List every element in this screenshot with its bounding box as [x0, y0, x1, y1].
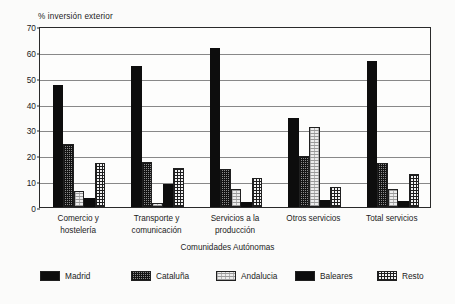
bar	[288, 118, 299, 207]
bar-group	[197, 28, 275, 207]
legend-swatch-icon	[216, 271, 236, 281]
legend-label: Baleares	[320, 271, 353, 281]
bar-group	[40, 28, 118, 207]
y-axis-title: % inversión exterior	[38, 12, 113, 21]
legend-item-madrid[interactable]: Madrid	[40, 269, 90, 283]
legend-swatch-icon	[131, 271, 151, 281]
bar	[330, 187, 341, 207]
legend-label: Madrid	[65, 271, 90, 281]
legend-item-catalua[interactable]: Cataluña	[131, 269, 189, 283]
bar	[210, 48, 221, 207]
x-category-label-line: Comercio y	[39, 213, 117, 225]
y-tick-label: 10	[27, 178, 36, 188]
bar	[63, 144, 74, 207]
bar	[163, 184, 174, 207]
x-axis-title: Comunidades Autónomas	[0, 243, 455, 252]
bar	[320, 200, 331, 207]
chart-figure: % inversión exterior 010203040506070 Com…	[0, 0, 455, 304]
plot-area: 010203040506070	[39, 27, 431, 208]
bar	[388, 189, 399, 207]
y-tick-label: 20	[27, 152, 36, 162]
bar	[398, 201, 409, 207]
bar	[299, 156, 310, 207]
bar	[131, 66, 142, 207]
x-category-label-line: producción	[196, 225, 274, 237]
legend-label: Andalucia	[241, 271, 277, 281]
legend-swatch-icon	[40, 271, 60, 281]
bar-group	[118, 28, 196, 207]
legend-item-baleares[interactable]: Baleares	[295, 269, 353, 283]
y-tick-label: 70	[27, 23, 36, 33]
legend-item-resto[interactable]: Resto	[377, 269, 424, 283]
bar	[367, 61, 378, 207]
y-tick-label: 0	[31, 204, 36, 214]
x-category-label: Comercio yhostelería	[39, 213, 117, 236]
y-tick-mark	[37, 209, 40, 210]
x-category-label-line: Total servicios	[353, 213, 431, 225]
bar	[231, 189, 242, 207]
bar	[252, 178, 263, 207]
bar-group	[354, 28, 432, 207]
bar	[309, 127, 320, 207]
bar	[377, 163, 388, 207]
y-tick-label: 40	[27, 101, 36, 111]
legend-label: Cataluña	[156, 271, 189, 281]
legend-label: Resto	[402, 271, 424, 281]
bar-group	[275, 28, 353, 207]
legend-item-andalucia[interactable]: Andalucia	[216, 269, 277, 283]
bar	[142, 162, 153, 208]
legend-swatch-icon	[377, 271, 397, 281]
x-category-label-line: hostelería	[39, 225, 117, 237]
x-category-label: Transporte ycomunicación	[117, 213, 195, 236]
x-category-label: Total servicios	[353, 213, 431, 225]
bar	[53, 85, 64, 207]
chart-legend: MadridCataluñaAndaluciaBalearesResto	[40, 269, 420, 285]
bar	[152, 203, 163, 207]
y-tick-label: 50	[27, 75, 36, 85]
x-category-label-line: Transporte y	[117, 213, 195, 225]
bar	[220, 169, 231, 207]
x-category-label: Servicios a laproducción	[196, 213, 274, 236]
x-category-label-line: Otros servicios	[274, 213, 352, 225]
bar	[84, 198, 95, 207]
legend-swatch-icon	[295, 271, 315, 281]
x-category-label-line: comunicación	[117, 225, 195, 237]
bar	[173, 168, 184, 207]
y-tick-label: 60	[27, 49, 36, 59]
bar	[95, 163, 106, 207]
bar	[241, 202, 252, 207]
bar	[74, 191, 85, 207]
x-category-label-line: Servicios a la	[196, 213, 274, 225]
bar	[409, 174, 420, 207]
x-category-label: Otros servicios	[274, 213, 352, 225]
y-tick-label: 30	[27, 126, 36, 136]
